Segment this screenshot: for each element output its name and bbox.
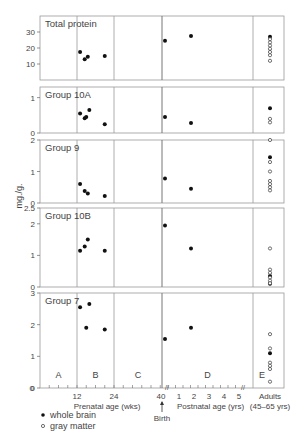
axis-break-icon: // <box>241 384 245 391</box>
legend-filled-marker-icon <box>41 413 45 417</box>
gray-matter-point <box>268 271 271 274</box>
x-tick-label: 2 <box>192 392 197 401</box>
gray-matter-point <box>268 367 271 370</box>
x-tick-label: 3 <box>207 392 212 401</box>
whole-brain-point <box>189 246 193 250</box>
whole-brain-point <box>103 54 107 58</box>
gray-matter-point <box>268 333 271 336</box>
gray-matter-point <box>268 361 271 364</box>
postnatal-axis-label: Postnatal age (yrs) <box>177 402 244 411</box>
gray-matter-point <box>268 138 271 141</box>
y-axis-label: mg./g. <box>14 183 24 208</box>
whole-brain-point <box>78 112 82 116</box>
whole-brain-point <box>163 39 167 43</box>
whole-brain-point <box>189 121 193 125</box>
whole-brain-point <box>78 249 82 253</box>
whole-brain-point <box>163 337 167 341</box>
x-tick-label: 24 <box>110 392 119 401</box>
whole-brain-point <box>83 189 87 193</box>
y-tick-label: 2.5 <box>24 204 36 213</box>
x-tick-label: 40 <box>157 392 166 401</box>
gray-matter-point <box>268 121 271 124</box>
y-tick-label: 1 <box>31 168 36 177</box>
gray-matter-point <box>268 170 271 173</box>
legend-open-marker-icon <box>41 424 44 427</box>
whole-brain-point <box>103 327 107 331</box>
whole-brain-point <box>189 326 193 330</box>
legend-label: gray matter <box>50 421 96 431</box>
whole-brain-point <box>83 245 87 249</box>
whole-brain-point <box>78 182 82 186</box>
gray-matter-point <box>268 189 271 192</box>
whole-brain-point <box>84 326 88 330</box>
whole-brain-point <box>86 238 90 242</box>
y-tick-label: 2 <box>31 321 36 330</box>
gray-matter-point <box>268 183 271 186</box>
whole-brain-point <box>189 187 193 191</box>
x-tick-label: 12 <box>73 392 82 401</box>
y-zero-label: 0 <box>30 384 35 393</box>
birth-arrowhead-icon <box>160 401 164 405</box>
whole-brain-point <box>86 192 90 196</box>
whole-brain-point <box>86 55 90 59</box>
panel-title: Group 10B <box>45 210 91 221</box>
gray-matter-point <box>268 50 271 53</box>
y-tick-label: 20 <box>26 44 35 53</box>
gray-matter-point <box>268 268 271 271</box>
gray-matter-point <box>268 44 271 47</box>
chart-figure: Total protein102030Group 10A01Group 9012… <box>0 0 304 447</box>
birth-label: Birth <box>154 414 170 423</box>
whole-brain-point <box>78 305 82 309</box>
period-label: B <box>92 370 98 380</box>
period-label: E <box>259 370 265 380</box>
gray-matter-point <box>268 179 271 182</box>
gray-matter-point <box>268 364 271 367</box>
whole-brain-point <box>103 249 107 253</box>
gray-matter-point <box>268 47 271 50</box>
adults-range-label: (45–65 yrs) <box>250 402 291 411</box>
gray-matter-point <box>268 347 271 350</box>
x-tick-label: 1 <box>177 392 182 401</box>
period-label: D <box>204 370 211 380</box>
gray-matter-point <box>268 282 271 285</box>
whole-brain-point <box>189 34 193 38</box>
whole-brain-point <box>103 194 107 198</box>
whole-brain-point <box>268 155 272 159</box>
y-tick-label: 1 <box>31 94 36 103</box>
whole-brain-point <box>87 108 91 112</box>
axis-break-icon: // <box>165 384 169 391</box>
whole-brain-point <box>84 115 88 119</box>
gray-matter-point <box>268 117 271 120</box>
panel-title: Total protein <box>45 18 97 29</box>
panel-title: Group 7 <box>45 295 79 306</box>
period-label: A <box>55 370 61 380</box>
whole-brain-point <box>87 302 91 306</box>
whole-brain-point <box>103 122 107 126</box>
legend-label: whole brain <box>49 410 96 420</box>
gray-matter-point <box>268 380 271 383</box>
whole-brain-point <box>163 115 167 119</box>
gray-matter-point <box>268 41 271 44</box>
panel-title: Group 10A <box>45 89 92 100</box>
gray-matter-point <box>268 160 271 163</box>
panel-title: Group 9 <box>45 142 79 153</box>
whole-brain-point <box>268 351 272 355</box>
adults-label: Adults <box>259 392 281 401</box>
y-tick-label: 2 <box>31 220 36 229</box>
whole-brain-point <box>163 223 167 227</box>
gray-matter-point <box>268 54 271 57</box>
whole-brain-point <box>163 176 167 180</box>
whole-brain-point <box>268 106 272 110</box>
period-label: C <box>135 370 142 380</box>
whole-brain-point <box>78 50 82 54</box>
gray-matter-point <box>268 186 271 189</box>
y-tick-label: 10 <box>26 60 35 69</box>
gray-matter-point <box>268 38 271 41</box>
x-tick-label: 5 <box>237 392 242 401</box>
y-tick-label: 30 <box>26 28 35 37</box>
y-tick-label: 1 <box>31 352 36 361</box>
y-tick-label: 3 <box>31 289 36 298</box>
y-tick-label: 2 <box>31 136 36 145</box>
y-tick-label: 1 <box>31 251 36 260</box>
gray-matter-point <box>268 59 271 62</box>
